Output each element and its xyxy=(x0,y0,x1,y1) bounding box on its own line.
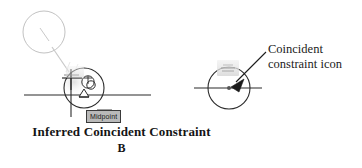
caption-main: Inferred Coincident Constraint xyxy=(0,124,243,140)
callout-line-1: Coincident xyxy=(268,42,342,57)
midpoint-tooltip: Midpoint xyxy=(86,110,121,123)
caption-sub: B xyxy=(0,141,243,156)
badge-hatch-lines xyxy=(221,65,235,71)
callout-line-2: constraint icon xyxy=(268,57,342,72)
coincident-callout: Coincident constraint icon xyxy=(268,42,342,71)
figure-root: Midpoint Coincident constraint icon Infe… xyxy=(0,0,362,168)
